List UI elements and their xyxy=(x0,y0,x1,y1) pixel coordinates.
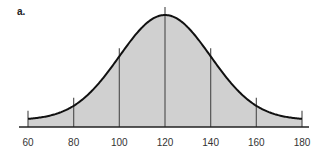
x-tick-label: 80 xyxy=(68,137,80,148)
x-tick-label: 120 xyxy=(157,137,174,148)
x-tick-label: 60 xyxy=(22,137,34,148)
x-tick-label: 100 xyxy=(111,137,128,148)
normal-distribution-chart: 6080100120140160180 xyxy=(0,0,325,162)
x-tick-label: 160 xyxy=(248,137,265,148)
x-tick-label: 180 xyxy=(294,137,311,148)
x-tick-label: 140 xyxy=(202,137,219,148)
